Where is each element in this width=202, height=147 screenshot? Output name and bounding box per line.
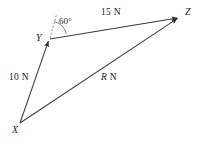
vertex-label-y: Y [36, 33, 42, 43]
dashed-reference-line [50, 15, 57, 39]
vertex-label-x: X [12, 125, 18, 135]
angle-label-60deg: 60° [59, 17, 72, 26]
vertex-label-z: Z [185, 7, 191, 17]
vector-line-xz [20, 19, 177, 123]
vector-diagram: X Y Z 10 N 15 N R N 60° [0, 0, 202, 147]
force-label-rn-unit: N [107, 72, 117, 82]
force-label-15n: 15 N [101, 8, 121, 18]
force-label-10n: 10 N [9, 73, 29, 83]
force-label-rn: R N [101, 73, 117, 83]
